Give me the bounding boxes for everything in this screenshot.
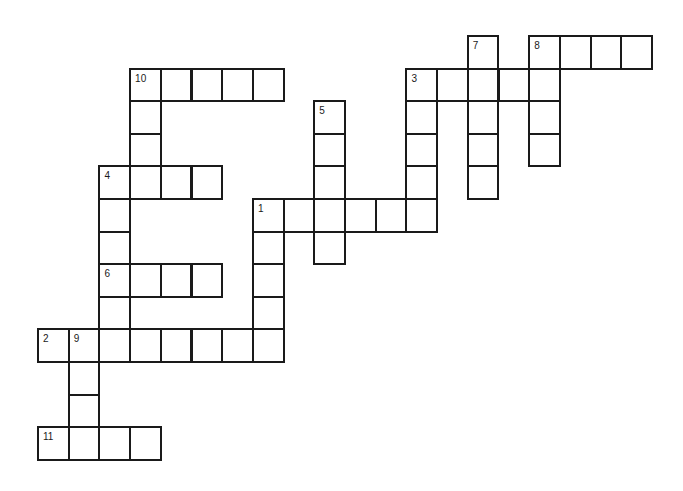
crossword-cell[interactable]	[252, 68, 285, 103]
clue-number: 3	[411, 74, 417, 84]
crossword-cell[interactable]	[98, 328, 131, 363]
crossword-cell[interactable]	[528, 68, 561, 103]
clue-number: 1	[258, 204, 264, 214]
crossword-cell[interactable]	[283, 198, 316, 233]
crossword-cell[interactable]: 4	[98, 165, 131, 200]
crossword-cell[interactable]	[129, 165, 162, 200]
crossword-cell[interactable]	[405, 198, 438, 233]
crossword-cell[interactable]	[405, 165, 438, 200]
crossword-cell[interactable]	[375, 198, 408, 233]
clue-number: 10	[135, 74, 146, 84]
crossword-cell[interactable]	[160, 165, 193, 200]
crossword-cell[interactable]	[313, 198, 346, 233]
crossword-cell[interactable]: 8	[528, 35, 561, 70]
clue-number: 9	[74, 334, 80, 344]
crossword-cell[interactable]	[313, 165, 346, 200]
crossword-cell[interactable]	[467, 68, 500, 103]
crossword-cell[interactable]	[528, 100, 561, 135]
crossword-cell[interactable]	[68, 361, 101, 396]
clue-number: 8	[534, 41, 540, 51]
crossword-cell[interactable]	[344, 198, 377, 233]
crossword-cell[interactable]: 2	[37, 328, 70, 363]
crossword-cell[interactable]	[160, 328, 193, 363]
clue-number: 6	[104, 269, 110, 279]
crossword-cell[interactable]	[98, 296, 131, 331]
crossword-cell[interactable]: 3	[405, 68, 438, 103]
crossword-cell[interactable]	[68, 394, 101, 429]
crossword-cell[interactable]	[191, 165, 224, 200]
clue-number: 11	[43, 432, 53, 442]
crossword-cell[interactable]	[191, 68, 224, 103]
crossword-cell[interactable]	[129, 133, 162, 168]
crossword-cell[interactable]	[252, 231, 285, 266]
clue-number: 4	[104, 171, 110, 181]
crossword-cell[interactable]	[221, 328, 254, 363]
crossword-cell[interactable]	[405, 100, 438, 135]
crossword-cell[interactable]	[528, 133, 561, 168]
clue-number: 2	[43, 334, 49, 344]
crossword-cell[interactable]	[252, 296, 285, 331]
crossword-cell[interactable]	[620, 35, 653, 70]
crossword-cell[interactable]	[98, 426, 131, 461]
crossword-cell[interactable]	[252, 263, 285, 298]
crossword-cell[interactable]	[498, 68, 531, 103]
crossword-cell[interactable]	[467, 100, 500, 135]
crossword-cell[interactable]	[98, 198, 131, 233]
crossword-cell[interactable]	[191, 328, 224, 363]
crossword-cell[interactable]: 7	[467, 35, 500, 70]
clue-number: 7	[473, 41, 479, 51]
crossword-cell[interactable]: 10	[129, 68, 162, 103]
crossword-cell[interactable]	[98, 231, 131, 266]
crossword-cell[interactable]	[160, 68, 193, 103]
crossword-cell[interactable]	[467, 133, 500, 168]
crossword-cell[interactable]	[252, 328, 285, 363]
crossword-cell[interactable]: 9	[68, 328, 101, 363]
crossword-cell[interactable]	[129, 100, 162, 135]
crossword-cell[interactable]	[590, 35, 623, 70]
crossword-cell[interactable]	[313, 133, 346, 168]
crossword-cell[interactable]: 6	[98, 263, 131, 298]
crossword-cell[interactable]	[436, 68, 469, 103]
crossword-cell[interactable]	[129, 426, 162, 461]
crossword-cell[interactable]: 11	[37, 426, 70, 461]
crossword-cell[interactable]	[68, 426, 101, 461]
crossword-cell[interactable]	[313, 231, 346, 266]
crossword-cell[interactable]	[160, 263, 193, 298]
crossword-cell[interactable]	[191, 263, 224, 298]
crossword-cell[interactable]: 1	[252, 198, 285, 233]
crossword-cell[interactable]: 5	[313, 100, 346, 135]
crossword-cell[interactable]	[467, 165, 500, 200]
crossword-grid: 7810354162911	[0, 0, 683, 491]
crossword-cell[interactable]	[405, 133, 438, 168]
crossword-cell[interactable]	[129, 328, 162, 363]
crossword-cell[interactable]	[129, 263, 162, 298]
crossword-cell[interactable]	[221, 68, 254, 103]
crossword-cell[interactable]	[559, 35, 592, 70]
clue-number: 5	[319, 106, 325, 116]
